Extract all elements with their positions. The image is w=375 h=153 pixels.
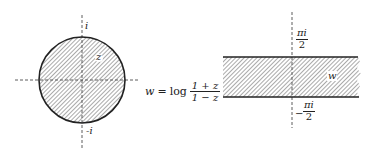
eq-denominator: 1 − z [192,92,218,103]
eq-numerator: 1 + z [190,80,220,92]
w-label-bottom: πi 2 [303,100,315,122]
unit-disk [39,37,125,123]
z-region-label: z [96,52,101,62]
diagram-canvas [0,0,375,153]
w-bottom-den: 2 [306,112,312,123]
w-region-label: w [328,71,337,81]
z-label-top-i: i [85,21,88,31]
eq-lhs: w [145,85,154,98]
eq-func: log [170,85,187,98]
strip-region [223,57,363,97]
eq-equals: = [157,85,166,98]
w-top-den: 2 [299,40,305,51]
w-bottom-num: πi [303,100,315,112]
z-label-bottom-neg-i: -i [86,126,93,136]
w-top-num: πi [296,28,308,40]
eq-fraction: 1 + z 1 − z [190,80,220,103]
w-label-top: πi 2 [296,28,308,50]
mapping-equation: w = log 1 + z 1 − z [145,80,220,103]
